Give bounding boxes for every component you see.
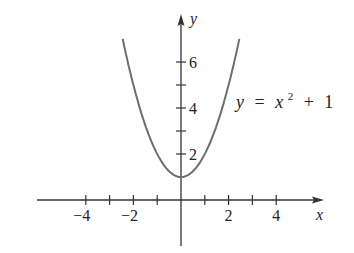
x-tick-label: −4	[73, 207, 90, 224]
y-axis-label: y	[188, 10, 198, 28]
x-tick-label: −2	[121, 207, 138, 224]
chart: −4−224246 x y y = x 2 + 1	[0, 0, 354, 253]
y-tick-label: 2	[189, 146, 197, 163]
ticks: −4−224246	[73, 54, 280, 224]
equation-label: y = x 2 + 1	[234, 84, 333, 112]
x-tick-label: 2	[225, 207, 233, 224]
y-tick-label: 4	[189, 100, 197, 117]
x-axis-label: x	[315, 206, 323, 223]
x-tick-label: 4	[272, 207, 280, 224]
y-tick-label: 6	[189, 54, 197, 71]
